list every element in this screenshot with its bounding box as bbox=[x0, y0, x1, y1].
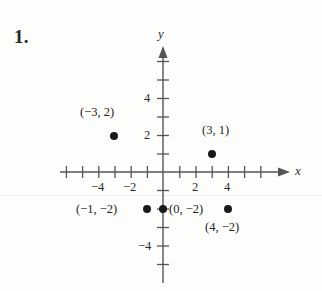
data-point-label-0-neg2: (0, −2) bbox=[169, 202, 203, 217]
data-point-3-1[interactable] bbox=[208, 150, 216, 158]
data-point-neg1-neg2[interactable] bbox=[143, 205, 151, 213]
data-point-label-3-1: (3, 1) bbox=[202, 123, 229, 138]
data-point-label-4-neg2: (4, −2) bbox=[205, 220, 239, 235]
x-axis-arrowhead bbox=[278, 168, 290, 177]
exercise-page: 1. bbox=[0, 0, 322, 291]
x-tick-label--4: −4 bbox=[91, 180, 104, 195]
y-tick-label-4: 4 bbox=[144, 91, 150, 106]
y-tick-label-2: 2 bbox=[144, 128, 150, 143]
data-point-label-neg1-neg2: (−1, −2) bbox=[76, 202, 117, 217]
coordinate-plane bbox=[0, 0, 322, 291]
data-point-label-neg3-2: (−3, 2) bbox=[80, 105, 114, 120]
data-point-4-neg2[interactable] bbox=[224, 205, 232, 213]
x-tick-label--2: −2 bbox=[123, 180, 136, 195]
axes-group bbox=[60, 46, 290, 283]
y-axis-arrowhead bbox=[159, 46, 168, 58]
x-axis-label: x bbox=[295, 163, 301, 179]
data-point-0-neg2[interactable] bbox=[159, 205, 167, 213]
x-tick-label-2: 2 bbox=[192, 180, 198, 195]
data-point-neg3-2[interactable] bbox=[110, 132, 118, 140]
y-tick-label--4: −4 bbox=[138, 239, 151, 254]
y-axis-label: y bbox=[158, 26, 164, 42]
x-tick-label-4: 4 bbox=[224, 180, 230, 195]
